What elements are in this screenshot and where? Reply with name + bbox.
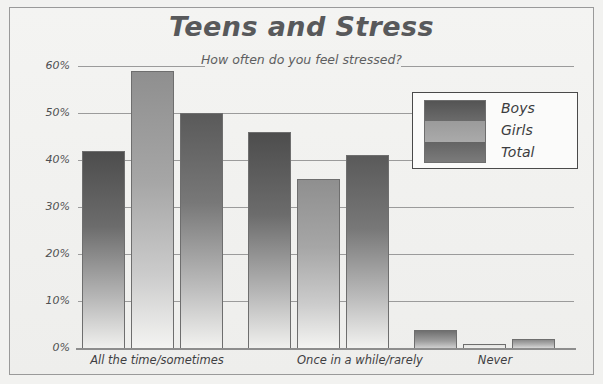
chart-subtitle: How often do you feel stressed? [0,52,603,67]
ytick-label-20: 20% [14,247,70,260]
bar-boys-all-the-time [82,151,125,349]
legend-label-total: Total [501,144,534,160]
bar-boys-never [414,330,457,349]
legend-swatch-group [424,100,486,163]
bar-girls-once-in-a-while [297,179,340,349]
chart-title: Teens and Stress [0,11,603,42]
bar-girls-all-the-time [131,71,174,349]
xtick-label-never: Never [420,353,570,367]
ytick-label-30: 30% [14,200,70,213]
legend-swatch-total [425,142,485,162]
chart-container: Teens and Stress 60% 50% 40% 30% 20% 10%… [0,0,603,384]
bar-total-all-the-time [180,113,223,349]
ytick-label-40: 40% [14,153,70,166]
bar-total-once-in-a-while [346,155,389,349]
legend-swatch-boys [425,101,485,121]
ytick-label-10: 10% [14,294,70,307]
ytick-label-50: 50% [14,106,70,119]
chart-legend: Boys Girls Total [412,92,578,169]
bar-boys-once-in-a-while [248,132,291,349]
legend-label-boys: Boys [501,100,535,116]
x-axis-baseline [76,348,576,350]
legend-label-girls: Girls [501,122,533,138]
legend-swatch-girls [425,121,485,141]
